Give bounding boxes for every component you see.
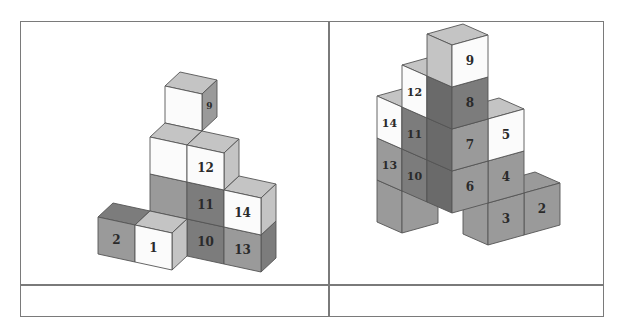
column-divider: [328, 22, 330, 316]
cell-right-figure: [330, 22, 603, 284]
cell-right-caption: [330, 286, 603, 316]
row-divider: [21, 284, 603, 286]
cell-left-figure: [21, 22, 328, 284]
figure-table: [20, 21, 604, 317]
cell-left-caption: [21, 286, 328, 316]
